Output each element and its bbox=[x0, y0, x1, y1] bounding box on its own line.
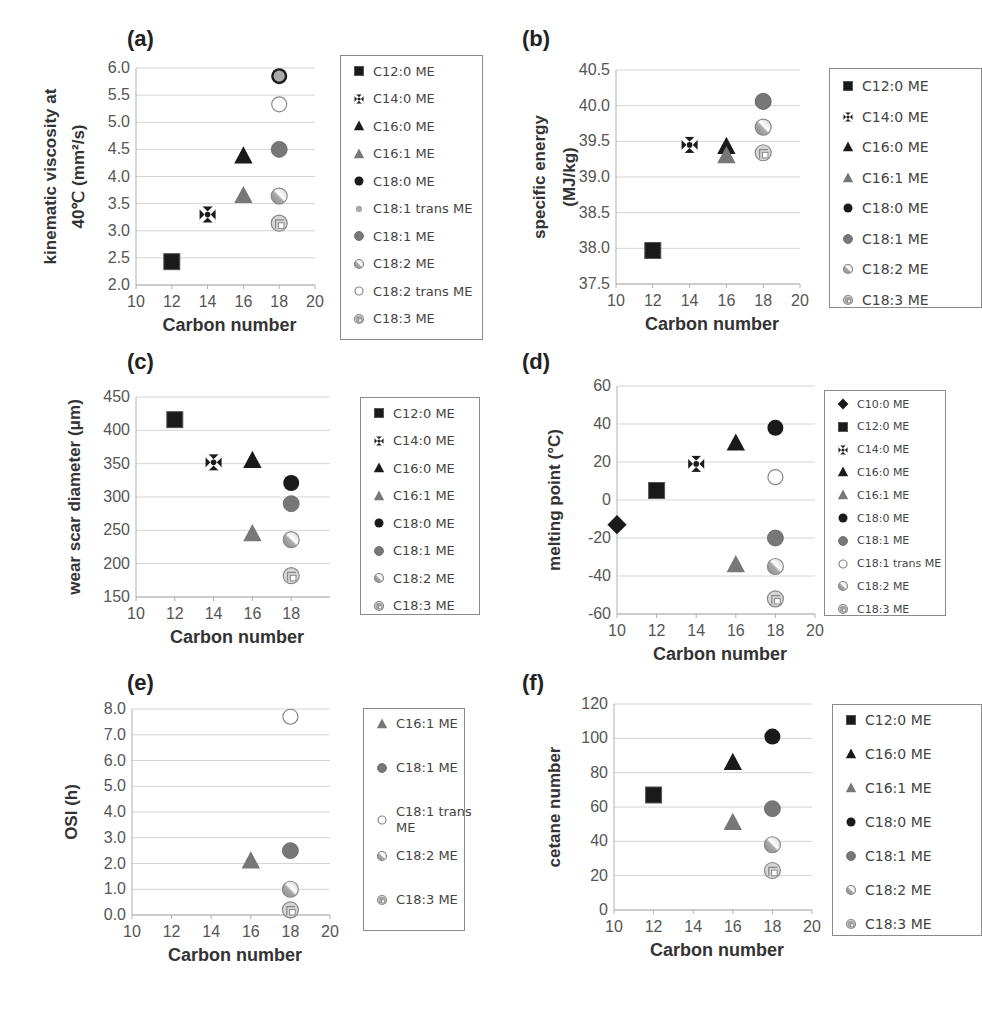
legend-marker-icon bbox=[843, 814, 859, 830]
legend-marker-icon bbox=[843, 712, 859, 728]
triangle-dark-marker-icon bbox=[724, 753, 742, 770]
legend-item: C18:2 ME bbox=[843, 882, 932, 898]
x-tick-labels: 101214161820 bbox=[605, 910, 821, 935]
y-tick-label: 120 bbox=[581, 695, 608, 712]
legend-marker-icon bbox=[843, 916, 859, 932]
legend-item: C18:3 ME bbox=[843, 916, 932, 932]
legend-marker-icon bbox=[843, 746, 859, 762]
triangle-dark-marker-icon bbox=[846, 749, 856, 759]
legend-label: C16:1 ME bbox=[865, 780, 932, 796]
legend-item: C16:0 ME bbox=[843, 746, 932, 762]
y-tick-label: 60 bbox=[590, 798, 608, 815]
gridlines bbox=[614, 704, 812, 910]
x-tick-label: 18 bbox=[764, 918, 782, 935]
x-tick-label: 20 bbox=[803, 918, 821, 935]
circle-hatched-marker-icon bbox=[847, 886, 856, 895]
circle-black-marker-icon bbox=[847, 818, 856, 827]
x-tick-label: 14 bbox=[684, 918, 702, 935]
square-marker-icon bbox=[646, 787, 662, 803]
legend-marker-icon bbox=[843, 780, 859, 796]
data-points bbox=[646, 729, 781, 879]
square-marker-icon bbox=[847, 716, 856, 725]
legend-label: C18:2 ME bbox=[865, 882, 932, 898]
circle-gray-marker-icon bbox=[847, 852, 856, 861]
x-tick-label: 12 bbox=[645, 918, 663, 935]
legend-marker-icon bbox=[843, 882, 859, 898]
circle-pattern-marker-icon bbox=[847, 920, 856, 929]
legend-item: C18:1 ME bbox=[843, 848, 932, 864]
circle-pattern-marker-icon bbox=[764, 863, 780, 879]
legend-label: C18:0 ME bbox=[865, 814, 932, 830]
legend-marker-icon bbox=[843, 848, 859, 864]
x-axis-label: Carbon number bbox=[650, 940, 784, 960]
x-tick-label: 10 bbox=[605, 918, 623, 935]
legend-label: C18:3 ME bbox=[865, 916, 932, 932]
y-tick-label: 0 bbox=[599, 901, 608, 918]
y-tick-label: 100 bbox=[581, 729, 608, 746]
y-tick-labels: 020406080100120 bbox=[581, 695, 608, 918]
y-tick-label: 20 bbox=[590, 867, 608, 884]
triangle-gray-marker-icon bbox=[724, 813, 742, 830]
y-tick-label: 40 bbox=[590, 832, 608, 849]
y-tick-label: 80 bbox=[590, 764, 608, 781]
legend: C12:0 MEC16:0 MEC16:1 MEC18:0 MEC18:1 ME… bbox=[832, 704, 982, 936]
y-axis-label: cetane number bbox=[545, 746, 564, 867]
x-tick-label: 16 bbox=[724, 918, 742, 935]
triangle-gray-marker-icon bbox=[846, 783, 856, 793]
legend-label: C16:0 ME bbox=[865, 746, 932, 762]
legend-label: C18:1 ME bbox=[865, 848, 932, 864]
circle-hatched-marker-icon bbox=[764, 837, 780, 853]
panel-f: (f)020406080100120101214161820Carbon num… bbox=[0, 0, 982, 1009]
legend-item: C18:0 ME bbox=[843, 814, 932, 830]
legend-label: C12:0 ME bbox=[865, 712, 932, 728]
circle-gray-marker-icon bbox=[764, 801, 780, 817]
legend-item: C16:1 ME bbox=[843, 780, 932, 796]
legend-item: C12:0 ME bbox=[843, 712, 932, 728]
circle-black-marker-icon bbox=[764, 729, 780, 745]
